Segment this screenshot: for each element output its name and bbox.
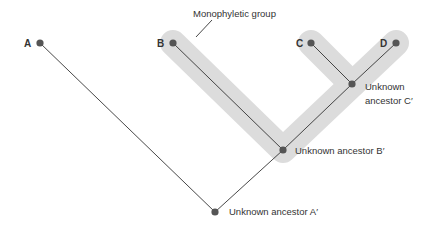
monophyletic-group-highlight [173,43,396,150]
node-b [169,39,176,46]
ancestor-c-label-line1: Unknown [365,81,405,92]
node-c [307,39,314,46]
node-ancestor-b-prime [279,146,286,153]
taxon-label-b: B [157,38,164,49]
node-a [36,39,43,46]
node-ancestor-a-prime [211,208,218,215]
group-label-pointer [196,20,212,37]
taxon-label-d: D [380,38,387,49]
node-d [392,39,399,46]
phylogenetic-tree-diagram: Monophyletic group A B C D Unknown ances… [0,0,432,227]
edge-ap-bp [215,150,283,212]
node-ancestor-c-prime [348,80,355,87]
ancestor-b-label: Unknown ancestor B′ [295,145,385,156]
group-label: Monophyletic group [193,8,276,19]
ancestor-c-label-line2: ancestor C′ [365,95,413,106]
ancestor-a-label: Unknown ancestor A′ [229,206,318,217]
taxon-label-a: A [24,38,31,49]
edge-bp-cp [283,84,352,150]
edge-b-bp [173,43,283,150]
taxon-label-c: C [296,38,303,49]
